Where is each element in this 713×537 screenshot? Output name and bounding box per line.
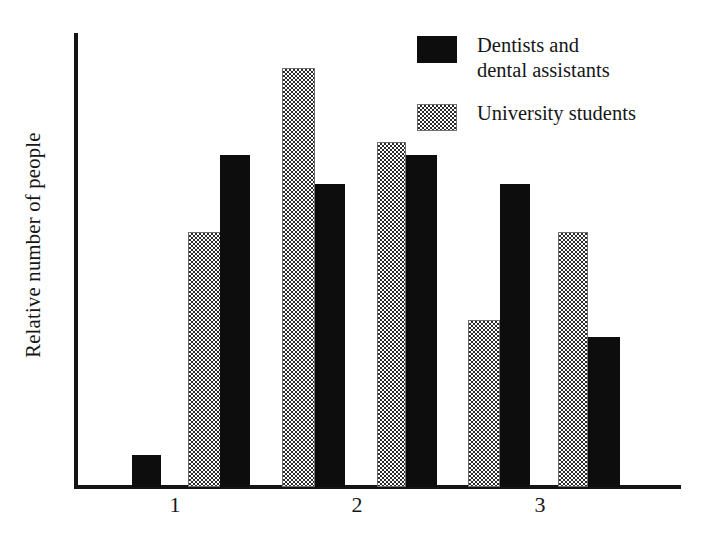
- bar-dentists-group-1-2: [220, 155, 250, 487]
- bar-dentists-group-3-10: [588, 337, 620, 487]
- x-tick-label-3: 3: [535, 492, 546, 518]
- bar-dentists-group-2-4: [315, 184, 345, 487]
- bar-dentists-group-3-8: [500, 184, 530, 487]
- legend-item-dentists[interactable]: Dentists and dental assistants: [417, 33, 702, 83]
- bar-students-group-3-7: [468, 320, 500, 487]
- legend-swatch-university-students-icon: [417, 104, 457, 131]
- bar-students-group-3-9: [558, 232, 588, 487]
- bar-students-group-2-3: [282, 68, 315, 487]
- bar-students-group-2-5: [377, 142, 406, 487]
- bar-chart-figure: Relative number of people 123 Dentists a…: [0, 0, 713, 537]
- legend-swatch-dentists-icon: [417, 36, 457, 63]
- bar-dentists-group-2-6: [406, 155, 437, 487]
- legend: Dentists and dental assistants Universit…: [417, 33, 702, 149]
- legend-label-dentists: Dentists and dental assistants: [477, 33, 610, 83]
- x-tick-label-2: 2: [352, 492, 363, 518]
- bar-students-group-1-1: [188, 232, 221, 487]
- bar-dentists-group-1-0: [132, 455, 161, 487]
- x-tick-label-1: 1: [170, 492, 181, 518]
- legend-label-university-students: University students: [477, 101, 636, 126]
- legend-item-university-students[interactable]: University students: [417, 101, 702, 131]
